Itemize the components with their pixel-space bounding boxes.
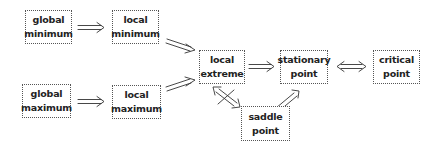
node-critical-point: critical point [373,50,420,84]
node-local-minimum: local minimum [112,10,159,44]
node-label-line: point [252,124,279,138]
node-label-line: local [123,13,147,27]
node-label-line: global [33,13,65,27]
node-label-line: minimum [24,27,72,41]
implies-arrow-local-max-local-extreme [166,77,195,91]
node-label-line: point [383,67,410,81]
node-label-line: local [210,53,234,67]
node-label-line: stationary [278,53,331,67]
node-label-line: maximum [21,101,72,115]
node-label-line: minimum [111,27,159,41]
implies-arrow-local-min-local-extreme [166,39,195,53]
node-stationary-point: stationary point [280,50,328,84]
not-equivalent-arrow-local-extreme-saddle [213,87,240,108]
node-global-maximum: global maximum [22,84,71,118]
implies-arrow-local-extreme-stationary [249,62,274,72]
node-local-extreme: local extreme [199,50,245,84]
node-label-line: extreme [200,67,243,81]
node-label-line: local [124,88,148,102]
node-local-maximum: local maximum [112,85,161,119]
equivalence-arrow-stationary-critical [337,62,366,72]
implies-arrow-global-max-local-max [78,97,104,107]
node-saddle-point: saddle point [241,106,290,141]
implies-arrow-global-min-local-min [78,23,104,33]
node-label-line: maximum [111,102,162,116]
node-label-line: point [291,67,318,81]
node-label-line: saddle [248,110,282,124]
node-global-minimum: global minimum [25,10,72,44]
node-label-line: critical [379,53,414,67]
node-label-line: global [31,87,63,101]
